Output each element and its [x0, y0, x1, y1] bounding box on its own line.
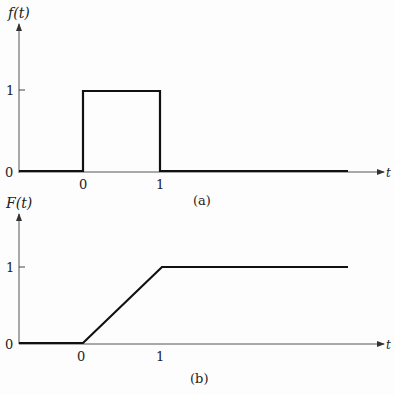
pulse-curve — [19, 91, 348, 171]
ylabel-b: F(t) — [5, 195, 32, 211]
plot-b: F(t) t 1 0 0 1 (b) — [5, 195, 391, 386]
xtick-label-0-a: 0 — [79, 177, 87, 192]
xtick-label-1-a: 1 — [156, 177, 164, 192]
figure: f(t) t 1 0 0 1 (a) F(t) t 1 0 0 1 (b) — [0, 0, 394, 395]
xlabel-b: t — [386, 338, 391, 352]
caption-b: (b) — [190, 371, 208, 386]
caption-a: (a) — [193, 193, 211, 208]
ytick-label-1-a: 1 — [6, 83, 14, 98]
xlabel-a: t — [386, 166, 391, 180]
ylabel-a: f(t) — [7, 5, 30, 21]
xtick-label-1-b: 1 — [156, 349, 164, 364]
plot-a: f(t) t 1 0 0 1 (a) — [5, 5, 391, 208]
ytick-label-0-b: 0 — [5, 337, 13, 352]
ramp-curve — [19, 267, 348, 343]
ytick-label-0-a: 0 — [5, 165, 13, 180]
xtick-label-0-b: 0 — [77, 349, 85, 364]
ytick-label-1-b: 1 — [6, 260, 14, 275]
